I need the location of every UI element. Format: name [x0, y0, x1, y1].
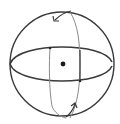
sphere-figure: Hand-drawn sphere with equator and merid… — [0, 0, 120, 124]
meridian-front-icon — [70, 12, 80, 118]
junction-dot-icon — [49, 47, 52, 50]
equator-front-icon — [10, 64, 112, 81]
junction-dot-icon — [79, 80, 82, 83]
equator-back-icon — [10, 47, 112, 64]
sphere-rotation-icon — [0, 0, 120, 124]
meridian-back-icon — [49, 48, 66, 118]
center-dot-icon — [61, 62, 66, 67]
